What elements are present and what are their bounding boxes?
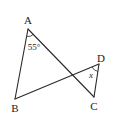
vertex-label-B: B	[11, 102, 18, 114]
segment-BD	[15, 64, 99, 99]
geometry-diagram: A B C D 55° x	[0, 0, 119, 119]
segment-DC	[94, 64, 99, 97]
angle-label-D: x	[88, 70, 93, 80]
angle-arc-A	[27, 35, 34, 37]
vertex-label-C: C	[90, 100, 97, 112]
vertex-label-A: A	[24, 14, 32, 26]
segment-AB	[15, 29, 28, 99]
angle-label-A: 55°	[28, 42, 41, 52]
vertex-label-D: D	[97, 52, 105, 64]
segment-AC	[28, 29, 94, 97]
